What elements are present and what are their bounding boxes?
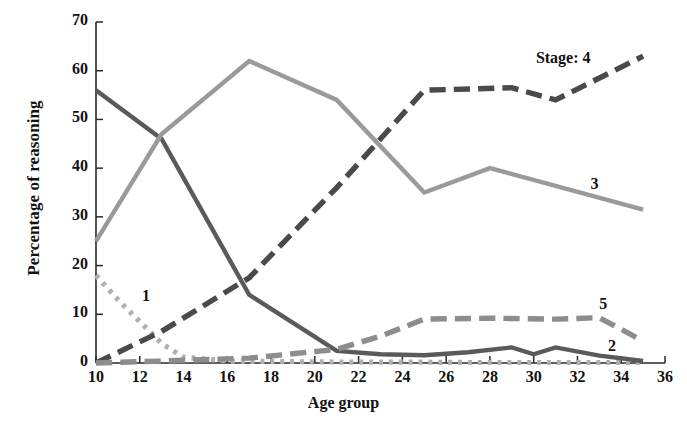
series-line-5 <box>96 318 643 363</box>
line-chart: Percentage of reasoning Age group 010203… <box>0 0 687 421</box>
plot-area <box>0 0 687 421</box>
